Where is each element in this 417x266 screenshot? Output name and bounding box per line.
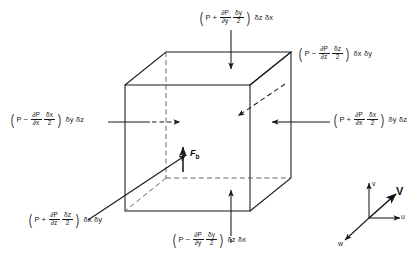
axes-triad [345, 183, 400, 240]
pressure-symbol: P [35, 216, 40, 224]
delta-fraction: δz 2 [332, 46, 344, 61]
sign: + [212, 14, 217, 22]
paren-close: ) [58, 112, 61, 127]
delta-denominator: 2 [209, 240, 215, 247]
area-term: δx δy [352, 50, 373, 57]
delta-denominator: 2 [335, 54, 341, 61]
delta-fraction: δx 2 [44, 112, 56, 127]
area-term: δy δz [64, 116, 85, 123]
paren-open: ( [299, 46, 302, 61]
derivative-denominator: ∂y [194, 240, 202, 247]
sign: − [185, 236, 190, 244]
delta-denominator: 2 [65, 220, 71, 227]
partial-derivative-fraction: ∂P ∂y [219, 10, 231, 25]
delta-fraction: δy 2 [233, 10, 245, 25]
derivative-numerator: ∂P [31, 112, 41, 119]
derivative-denominator: ∂z [320, 54, 328, 61]
front-face-force-label: ( P + ∂P ∂z δz 2 ) δx δy [28, 212, 102, 227]
velocity-vector-label: V [396, 185, 403, 197]
sign: − [311, 50, 316, 58]
top-face-force-label: ( P + ∂P ∂y δy 2 ) δz δx [199, 10, 273, 25]
paren-close: ) [220, 232, 223, 247]
partial-derivative-fraction: ∂P ∂z [48, 212, 60, 227]
figure-canvas: ( P + ∂P ∂y δy 2 ) δz δx ( P − ∂P [0, 0, 417, 266]
paren-open: ( [173, 232, 176, 247]
pressure-symbol: P [17, 116, 22, 124]
axis-label-w: w [338, 240, 343, 247]
paren-close: ) [381, 112, 384, 127]
sign: + [346, 116, 351, 124]
derivative-denominator: ∂x [32, 120, 40, 127]
body-force-subscript: b [196, 153, 200, 160]
partial-derivative-fraction: ∂P ∂x [30, 112, 42, 127]
paren-close: ) [346, 46, 349, 61]
cube-solid-edges [125, 52, 291, 211]
bottom-face-force-label: ( P − ∂P ∂y δy 2 ) δz δx [172, 232, 246, 247]
area-term: δz δx [253, 14, 274, 21]
derivative-denominator: ∂y [221, 18, 229, 25]
delta-numerator: δx [368, 112, 377, 119]
cube-hidden-edges [125, 52, 291, 211]
partial-derivative-fraction: ∂P ∂x [353, 112, 365, 127]
derivative-denominator: ∂x [355, 120, 363, 127]
right-face-force-label: ( P + ∂P ∂x δx 2 ) δy δz [333, 112, 407, 127]
paren-open: ( [200, 10, 203, 25]
delta-denominator: 2 [370, 120, 376, 127]
partial-derivative-fraction: ∂P ∂y [192, 232, 204, 247]
pressure-symbol: P [179, 236, 184, 244]
axis-label-v: v [372, 180, 376, 187]
delta-fraction: δy 2 [206, 232, 218, 247]
derivative-numerator: ∂P [193, 232, 203, 239]
area-term: δx δy [82, 216, 103, 223]
delta-numerator: δy [207, 232, 216, 239]
paren-open: ( [29, 212, 32, 227]
delta-numerator: δx [45, 112, 54, 119]
back-force-arrow [238, 84, 285, 116]
back-face-force-label: ( P − ∂P ∂z δz 2 ) δx δy [298, 46, 372, 61]
delta-numerator: δz [63, 212, 72, 219]
area-term: δz δx [226, 236, 247, 243]
partial-derivative-fraction: ∂P ∂z [318, 46, 330, 61]
left-face-force-label: ( P − ∂P ∂x δx 2 ) δy δz [10, 112, 84, 127]
area-term: δy δz [387, 116, 408, 123]
front-force-arrow [88, 155, 186, 220]
delta-fraction: δx 2 [367, 112, 379, 127]
pressure-symbol: P [340, 116, 345, 124]
paren-open: ( [11, 112, 14, 127]
paren-close: ) [76, 212, 79, 227]
derivative-numerator: ∂P [220, 10, 230, 17]
pressure-symbol: P [206, 14, 211, 22]
derivative-denominator: ∂z [50, 220, 58, 227]
delta-denominator: 2 [47, 120, 53, 127]
body-force-label: Fb [190, 148, 199, 160]
derivative-numerator: ∂P [49, 212, 59, 219]
delta-denominator: 2 [236, 18, 242, 25]
sign: − [23, 116, 28, 124]
delta-numerator: δy [234, 10, 243, 17]
sign: + [41, 216, 46, 224]
paren-open: ( [334, 112, 337, 127]
paren-close: ) [247, 10, 250, 25]
derivative-numerator: ∂P [354, 112, 364, 119]
derivative-numerator: ∂P [319, 46, 329, 53]
delta-fraction: δz 2 [62, 212, 74, 227]
delta-numerator: δz [333, 46, 342, 53]
velocity-vector-arrow [369, 194, 396, 218]
pressure-symbol: P [305, 50, 310, 58]
axis-label-u: u [401, 213, 405, 220]
